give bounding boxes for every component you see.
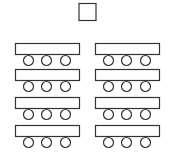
student-seat bbox=[104, 110, 114, 120]
student-seat bbox=[141, 110, 151, 120]
student-seat bbox=[42, 82, 52, 92]
student-desk bbox=[96, 98, 160, 109]
student-seat bbox=[61, 82, 71, 92]
student-seat bbox=[104, 56, 114, 66]
student-seat bbox=[141, 82, 151, 92]
student-seat bbox=[61, 56, 71, 66]
desk-group-right-row-3 bbox=[96, 98, 160, 120]
student-seat bbox=[42, 56, 52, 66]
student-desk bbox=[16, 70, 80, 81]
student-seat bbox=[24, 82, 34, 92]
desk-group-left-row-1 bbox=[16, 44, 80, 66]
student-desk bbox=[96, 44, 160, 55]
student-seat bbox=[141, 138, 151, 148]
student-seat bbox=[122, 82, 132, 92]
student-seat bbox=[104, 138, 114, 148]
student-seat bbox=[61, 110, 71, 120]
student-desk bbox=[16, 98, 80, 109]
desk-group-left-row-2 bbox=[16, 70, 80, 92]
desk-group-left-row-3 bbox=[16, 98, 80, 120]
student-desk bbox=[96, 70, 160, 81]
student-seat bbox=[122, 56, 132, 66]
student-seat bbox=[42, 110, 52, 120]
student-seat bbox=[141, 56, 151, 66]
student-seat bbox=[42, 138, 52, 148]
student-desk bbox=[16, 126, 80, 137]
desk-group-left-row-4 bbox=[16, 126, 80, 148]
student-desk bbox=[96, 126, 160, 137]
student-seat bbox=[24, 110, 34, 120]
student-seat bbox=[24, 56, 34, 66]
teacher-desk bbox=[79, 4, 96, 21]
student-seat bbox=[24, 138, 34, 148]
student-seat bbox=[104, 82, 114, 92]
student-desk bbox=[16, 44, 80, 55]
student-seat bbox=[122, 138, 132, 148]
desk-group-right-row-4 bbox=[96, 126, 160, 148]
student-seat bbox=[61, 138, 71, 148]
classroom-layout-diagram bbox=[0, 0, 172, 166]
desk-group-right-row-1 bbox=[96, 44, 160, 66]
desk-group-right-row-2 bbox=[96, 70, 160, 92]
student-seat bbox=[122, 110, 132, 120]
